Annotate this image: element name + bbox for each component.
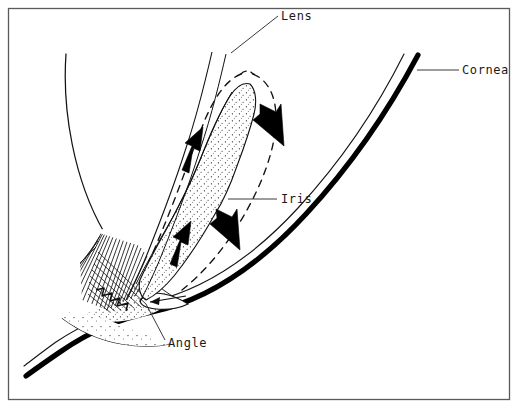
label-cornea: Cornea bbox=[462, 63, 509, 77]
label-lens: Lens bbox=[281, 9, 312, 23]
flow-arrow-down-icon bbox=[253, 104, 284, 146]
leader-line-lens bbox=[231, 16, 278, 53]
anatomy-diagram-figure: Lens Cornea Iris Angle bbox=[0, 0, 518, 408]
figure-frame bbox=[9, 9, 510, 400]
iris-dashed-outline-pupil-tip bbox=[241, 71, 253, 74]
label-iris: Iris bbox=[281, 192, 312, 206]
iris-structure bbox=[126, 52, 256, 302]
label-angle: Angle bbox=[168, 336, 207, 350]
diagram-canvas: Lens Cornea Iris Angle bbox=[0, 0, 518, 408]
